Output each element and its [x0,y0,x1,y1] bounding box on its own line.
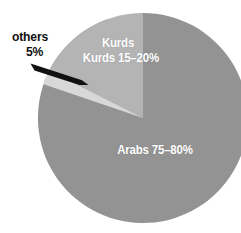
pie-chart: Kurds Kurds 15–20% Arabs 75–80% others 5… [0,0,241,233]
others-callout-label: others [12,29,48,44]
pie-slice-label-arabs: Arabs 75–80% [103,143,207,158]
kurds-name: Kurds [102,35,134,50]
pie-slice-label-kurds: Kurds Kurds 15–20% [83,36,153,65]
others-callout-value: 5% [26,44,43,59]
kurds-percent: Kurds 15–20% [83,50,159,65]
